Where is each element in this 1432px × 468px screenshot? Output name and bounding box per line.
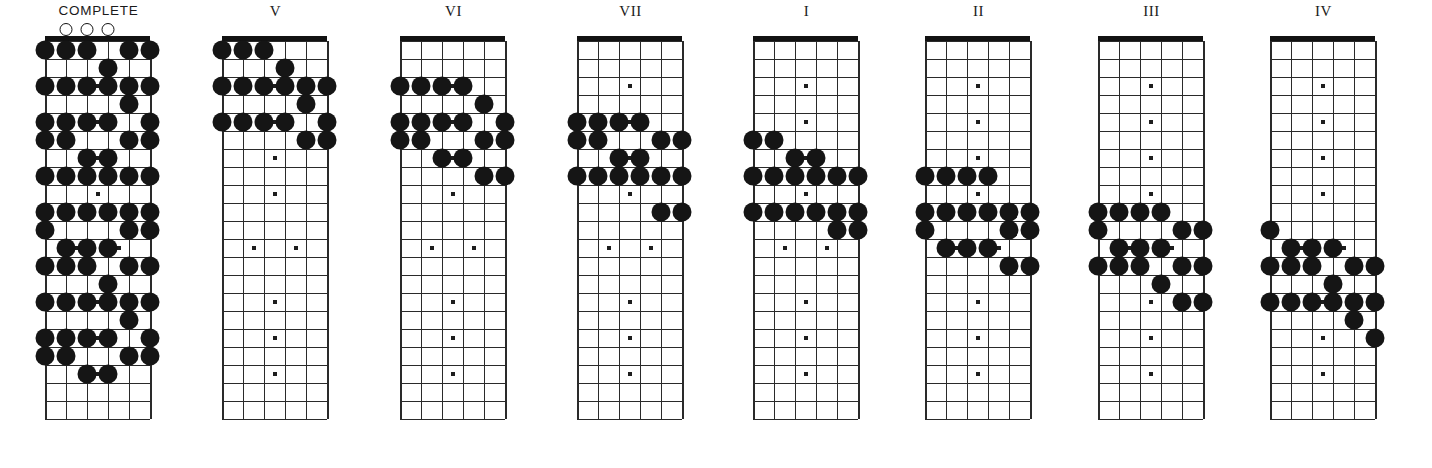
fret-line [1270, 77, 1375, 78]
note-dot [36, 77, 55, 96]
note-dot [454, 77, 473, 96]
note-dot [36, 293, 55, 312]
fret-line [925, 293, 1030, 294]
fret-inlay-marker [628, 336, 632, 340]
note-dot [1131, 203, 1150, 222]
note-dot [673, 131, 692, 150]
note-dot [141, 293, 160, 312]
note-dot [1282, 293, 1301, 312]
fret-inlay-marker [252, 246, 256, 250]
note-dot [78, 365, 97, 384]
fret-grid [400, 41, 505, 419]
fret-inlay-marker [976, 372, 980, 376]
note-dot [36, 167, 55, 186]
fret-line [1098, 419, 1203, 420]
note-dot [916, 167, 935, 186]
note-dot [937, 167, 956, 186]
fret-line [1098, 77, 1203, 78]
note-dot [99, 59, 118, 78]
note-dot [475, 95, 494, 114]
fret-line [400, 149, 505, 150]
note-dot [78, 293, 97, 312]
fret-line [1270, 221, 1375, 222]
fret-line [925, 113, 1030, 114]
fret-line [1270, 59, 1375, 60]
note-dot [589, 167, 608, 186]
note-dot [496, 113, 515, 132]
note-dot [1131, 239, 1150, 258]
string-line [421, 41, 422, 419]
fret-line [400, 293, 505, 294]
fret-inlay-marker [451, 372, 455, 376]
fret-grid [577, 41, 682, 419]
string-line [222, 41, 224, 419]
note-dot [958, 239, 977, 258]
note-dot [412, 113, 431, 132]
note-dot [496, 167, 515, 186]
fret-line [222, 401, 327, 402]
fret-line [1270, 365, 1375, 366]
note-dot [1324, 293, 1343, 312]
fretboard-diagram-sheet: COMPLETEVVIVIIIIIIIIIV [0, 0, 1432, 468]
string-line [285, 41, 286, 419]
note-dot [1110, 239, 1129, 258]
note-dot [1131, 257, 1150, 276]
note-dot [234, 113, 253, 132]
fret-line [1270, 113, 1375, 114]
note-dot [568, 167, 587, 186]
fret-inlay-marker [607, 246, 611, 250]
note-dot [433, 77, 452, 96]
note-dot [828, 221, 847, 240]
fret-line [222, 203, 327, 204]
note-dot [496, 131, 515, 150]
fret-grid [222, 41, 327, 419]
string-line [661, 41, 662, 419]
fret-line [400, 257, 505, 258]
note-dot [589, 131, 608, 150]
fret-inlay-marker [1321, 372, 1325, 376]
note-dot [120, 311, 139, 330]
fret-line [753, 77, 858, 78]
note-dot [652, 131, 671, 150]
note-dot [391, 131, 410, 150]
note-dot [652, 167, 671, 186]
note-dot [1194, 293, 1213, 312]
note-dot [78, 149, 97, 168]
fret-line [222, 257, 327, 258]
fret-line [1270, 185, 1375, 186]
fret-line [45, 185, 150, 186]
fret-line [753, 257, 858, 258]
note-dot [391, 77, 410, 96]
fret-line [222, 59, 327, 60]
note-dot [1152, 203, 1171, 222]
string-line [1333, 41, 1334, 419]
string-line [1140, 41, 1141, 419]
fret-line [753, 419, 858, 420]
note-dot [1089, 203, 1108, 222]
note-dot [979, 239, 998, 258]
fret-inlay-marker [976, 156, 980, 160]
fret-line [400, 59, 505, 60]
fret-inlay-marker [273, 192, 277, 196]
fret-line [925, 185, 1030, 186]
fret-line [925, 149, 1030, 150]
fret-line [400, 347, 505, 348]
fret-line [1098, 311, 1203, 312]
fret-grid [45, 41, 150, 419]
fret-inlay-marker [1149, 84, 1153, 88]
fret-line [1098, 113, 1203, 114]
fret-line [222, 185, 327, 186]
note-dot [765, 131, 784, 150]
fret-line [577, 329, 682, 330]
note-dot [433, 149, 452, 168]
fretboard-pattern-i [753, 36, 858, 420]
note-dot [744, 167, 763, 186]
open-string-row-complete [45, 22, 152, 36]
fret-line [1098, 41, 1203, 42]
fret-line [400, 41, 505, 42]
note-dot [141, 347, 160, 366]
note-dot [99, 149, 118, 168]
note-dot [631, 167, 650, 186]
string-line [87, 41, 88, 419]
fret-inlay-marker [976, 84, 980, 88]
